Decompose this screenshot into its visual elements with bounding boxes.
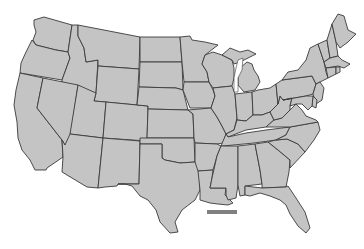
state-arizona[interactable] xyxy=(62,134,103,188)
state-connecticut[interactable] xyxy=(326,67,336,78)
us-map xyxy=(0,0,364,249)
state-iowa[interactable] xyxy=(183,82,215,108)
state-north-dakota[interactable] xyxy=(140,37,182,62)
state-wyoming[interactable] xyxy=(94,66,139,105)
state-south-dakota[interactable] xyxy=(139,62,183,90)
state-colorado[interactable] xyxy=(103,102,148,141)
state-indiana[interactable] xyxy=(235,92,253,121)
state-new-mexico[interactable] xyxy=(98,138,140,188)
highlight-bar xyxy=(207,210,237,214)
state-florida[interactable] xyxy=(245,186,310,233)
state-kansas[interactable] xyxy=(147,109,194,138)
state-rhode-island[interactable] xyxy=(336,67,340,74)
